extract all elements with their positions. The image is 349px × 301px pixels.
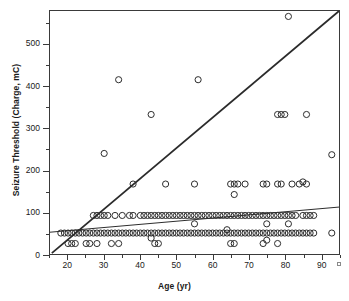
data-point [275, 240, 281, 246]
scatter-plot-svg [50, 11, 339, 254]
x-tick-minor [304, 255, 305, 258]
x-tick-minor [267, 255, 268, 258]
x-tick-label: 40 [125, 261, 155, 270]
data-point [112, 212, 118, 218]
data-point [329, 152, 335, 158]
data-point [191, 181, 197, 187]
data-point [285, 13, 291, 19]
data-point [303, 181, 309, 187]
data-point [148, 111, 154, 117]
data-point [329, 230, 335, 236]
data-point [130, 212, 136, 218]
x-tick-label: 70 [234, 261, 264, 270]
axis-edge-artifact [337, 262, 341, 266]
data-point [101, 150, 107, 156]
data-point [264, 181, 270, 187]
data-point [108, 240, 114, 246]
data-point [311, 212, 317, 218]
x-axis-title: Age (yr) [0, 281, 349, 291]
data-point [191, 221, 197, 227]
data-point [293, 212, 299, 218]
data-point [264, 221, 270, 227]
x-tick-minor [49, 255, 50, 258]
x-tick-minor [122, 255, 123, 258]
data-point [231, 240, 237, 246]
data-point [105, 212, 111, 218]
data-point [300, 179, 306, 185]
data-point [116, 77, 122, 83]
y-tick-label: 0 [0, 251, 40, 260]
data-point [231, 191, 237, 197]
x-tick-label: 60 [198, 261, 228, 270]
data-point [303, 111, 309, 117]
data-point [235, 181, 241, 187]
plot-area [49, 10, 340, 255]
plot-canvas [50, 11, 339, 254]
data-point [289, 181, 295, 187]
x-tick-label: 90 [307, 261, 337, 270]
x-tick-minor [85, 255, 86, 258]
seizure-threshold-scatter-figure: 0100200300400500 2030405060708090 Age (y… [0, 0, 349, 301]
data-point [195, 77, 201, 83]
data-point [282, 111, 288, 117]
x-tick-label: 30 [89, 261, 119, 270]
data-point [296, 181, 302, 187]
x-tick-label: 20 [52, 261, 82, 270]
x-tick-minor [195, 255, 196, 258]
data-point [116, 240, 122, 246]
data-point [87, 240, 93, 246]
x-tick-label: 50 [161, 261, 191, 270]
data-point [119, 212, 125, 218]
x-tick-minor [340, 255, 341, 258]
data-point [163, 181, 169, 187]
x-tick-minor [231, 255, 232, 258]
data-point [242, 181, 248, 187]
x-tick-minor [158, 255, 159, 258]
data-point [278, 181, 284, 187]
shallow-regression-line [50, 207, 339, 232]
data-point [311, 230, 317, 236]
data-point [155, 240, 161, 246]
data-point [264, 237, 270, 243]
x-tick-label: 80 [270, 261, 300, 270]
data-point [94, 240, 100, 246]
y-axis-title: Seizure Threshold (Charge, mC) [11, 20, 21, 240]
data-point [260, 240, 266, 246]
data-point [72, 240, 78, 246]
data-point [285, 221, 291, 227]
